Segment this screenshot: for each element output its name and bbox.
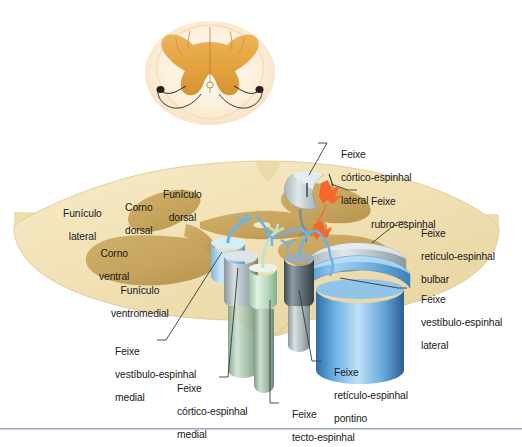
callout-cel-line1: Feixe: [341, 149, 366, 160]
label-funiculo-ventromedial-line2: ventromedial: [111, 308, 169, 319]
footer-divider-shadow: [0, 429, 522, 430]
label-corno-dorsal-line1: Corno: [125, 202, 153, 213]
callout-vel-line3: lateral: [421, 340, 448, 351]
callout-vel-line1: Feixe: [421, 294, 446, 305]
callout-feixe-vestibulo-espinhal-lateral: Feixe vestíbulo-espinhal lateral: [410, 282, 502, 363]
label-corno-ventral-line1: Corno: [100, 248, 128, 259]
inset-spinal-cord-section: [145, 21, 275, 125]
callout-vem-line1: Feixe: [115, 346, 140, 357]
callout-rubro-line1: Feixe: [371, 196, 396, 207]
label-funiculo-lateral-line1: Funículo: [63, 208, 102, 219]
callout-cem-line1: Feixe: [177, 383, 202, 394]
callout-rep-line2: retículo-espinhal: [334, 390, 408, 401]
callout-feixe-reticulo-espinhal-pontino: Feixe retículo-espinhal pontino: [323, 355, 408, 436]
label-funiculo-dorsal-line1: Funículo: [163, 189, 202, 200]
label-funiculo-ventromedial-line1: Funículo: [121, 285, 160, 296]
callout-vem-line3: medial: [115, 392, 145, 403]
callout-reb-line1: Feixe: [421, 228, 446, 239]
label-funiculo-dorsal-line2: dorsal: [169, 212, 196, 223]
callout-rep-line3: pontino: [334, 413, 367, 424]
callout-rep-line1: Feixe: [334, 367, 359, 378]
callout-cel-line2: córtico-espinhal: [341, 172, 412, 183]
callout-tecto-line1: Feixe: [292, 409, 317, 420]
label-funiculo-ventromedial: Funículo ventromedial: [100, 273, 169, 331]
label-funiculo-dorsal: Funículo dorsal: [152, 177, 202, 235]
callout-reb-line2: retículo-espinhal: [421, 251, 495, 262]
callout-feixe-cortico-espinhal-medial: Feixe córtico-espinhal medial: [166, 371, 248, 447]
callout-cem-line2: córtico-espinhal: [177, 406, 248, 417]
label-corno-dorsal-line2: dorsal: [125, 225, 152, 236]
callout-cem-line3: medial: [177, 429, 207, 440]
callout-vel-line2: vestíbulo-espinhal: [421, 317, 502, 328]
